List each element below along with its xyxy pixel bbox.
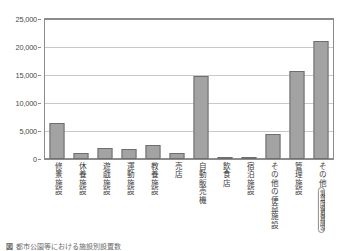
figure-caption: 図都市公園等における施設別設置数 <box>6 243 342 251</box>
bar <box>98 148 113 159</box>
bar <box>122 149 137 159</box>
bar <box>314 41 329 159</box>
bar-slot <box>93 19 117 159</box>
x-axis-tick-label-text: 飲食店 <box>221 162 229 187</box>
x-axis-tick-label-text: 修景施設 <box>53 162 61 196</box>
x-axis-tick-label-text: 売店 <box>173 162 181 179</box>
x-axis-tick-label: 宿泊施設 <box>245 162 253 196</box>
x-axis-tick-label: 飲食店 <box>221 162 229 187</box>
x-axis-tick-label: 運動施設 <box>125 162 133 196</box>
x-axis-labels: 修景施設休養施設遊戯施設運動施設教養施設売店自動販売機飲食店宿泊施設その他の便益… <box>45 162 333 248</box>
bar-slot <box>45 19 69 159</box>
x-axis-tick-label: 自動販売機 <box>197 162 205 204</box>
y-axis-tick-label: 0 <box>33 155 37 164</box>
x-axis-label-annotation: 集会所備蓄倉庫等 <box>318 187 326 233</box>
bar-slot <box>237 19 261 159</box>
annotation-column: 備蓄倉庫等 <box>319 205 325 230</box>
bar-chart-figure: 05,00010,00015,00020,00025,000 修景施設休養施設遊… <box>0 0 343 251</box>
y-axis-tick-mark <box>38 103 41 104</box>
x-axis-tick-label-text: 自動販売機 <box>197 162 205 204</box>
y-axis-tick-mark <box>38 159 41 160</box>
y-axis-tick-mark <box>38 19 41 20</box>
x-axis-tick-label-text: その他 <box>317 162 325 187</box>
y-axis-tick-label: 5,000 <box>20 127 38 136</box>
x-axis-tick-label-text: 運動施設 <box>125 162 133 196</box>
y-axis-tick-label: 25,000 <box>16 15 37 24</box>
bar <box>170 153 185 159</box>
bar <box>266 134 281 159</box>
caption-tag: 図 <box>6 243 13 250</box>
x-axis-tick-label: 管理施設 <box>293 162 301 196</box>
bar <box>50 123 65 159</box>
bar-slot <box>141 19 165 159</box>
x-axis-tick-label-text: 遊戯施設 <box>101 162 109 196</box>
bar <box>146 145 161 159</box>
x-axis-tick-label-text: その他の便益施設 <box>269 162 277 229</box>
bar-slot <box>189 19 213 159</box>
annotation-column: 集会所 <box>319 190 325 205</box>
bar <box>74 153 89 159</box>
bar <box>194 76 209 159</box>
bar-slot <box>213 19 237 159</box>
x-axis-tick-label: 修景施設 <box>53 162 61 196</box>
bar <box>242 157 257 159</box>
y-axis-tick-label: 15,000 <box>16 71 37 80</box>
bar-slot <box>285 19 309 159</box>
x-axis-tick-label: 遊戯施設 <box>101 162 109 196</box>
y-axis-tick-mark <box>38 47 41 48</box>
x-axis-tick-label: その他集会所備蓄倉庫等 <box>317 162 325 233</box>
x-axis-tick-label-text: 宿泊施設 <box>245 162 253 196</box>
bar-slot <box>165 19 189 159</box>
x-axis-tick-label-text: 教養施設 <box>149 162 157 196</box>
y-axis-tick-mark <box>38 75 41 76</box>
x-axis-tick-label: その他の便益施設 <box>269 162 277 229</box>
y-axis-tick-label: 10,000 <box>16 99 37 108</box>
y-axis-tick-mark <box>38 131 41 132</box>
bar-series <box>45 19 333 159</box>
bar <box>290 71 305 159</box>
x-axis-tick-label: 休養施設 <box>77 162 85 196</box>
x-axis-tick-label: 売店 <box>173 162 181 179</box>
x-axis-tick-label: 教養施設 <box>149 162 157 196</box>
bar-slot <box>309 19 333 159</box>
caption-text: 都市公園等における施設別設置数 <box>16 243 121 250</box>
y-axis-tick-label: 20,000 <box>16 43 37 52</box>
x-axis-tick-label-text: 休養施設 <box>77 162 85 196</box>
bar-slot <box>69 19 93 159</box>
bar <box>218 157 233 159</box>
bar-slot <box>261 19 285 159</box>
bar-slot <box>117 19 141 159</box>
x-axis-tick-label-text: 管理施設 <box>293 162 301 196</box>
y-axis: 05,00010,00015,00020,00025,000 <box>0 18 41 160</box>
